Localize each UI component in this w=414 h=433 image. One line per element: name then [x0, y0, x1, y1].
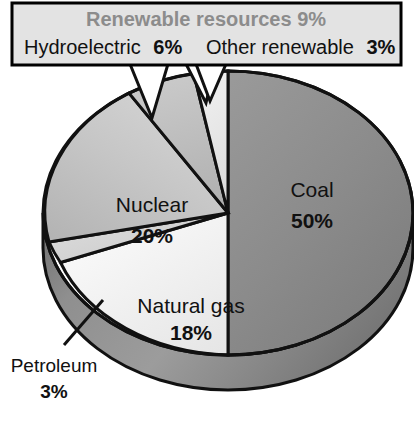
label-natural-gas-value: 18%	[170, 321, 212, 344]
pie-chart-figure: Renewable resources 9% Hydroelectric 6% …	[0, 0, 414, 433]
label-nuclear-name: Nuclear	[116, 193, 188, 216]
label-petroleum-name: Petroleum	[11, 355, 98, 376]
label-coal-name: Coal	[290, 178, 333, 201]
label-coal-value: 50%	[291, 209, 333, 232]
callout-hydro-value: 6%	[153, 36, 182, 58]
svg-text:Other renewable 3%: Other renewable 3%	[206, 36, 396, 58]
label-natural-gas-name: Natural gas	[137, 294, 244, 317]
renewables-callout-box: Renewable resources 9% Hydroelectric 6% …	[12, 3, 401, 65]
svg-text:Hydroelectric 6%: Hydroelectric 6%	[24, 36, 182, 58]
callout-hydro-name: Hydroelectric	[24, 36, 141, 58]
callout-other-value: 3%	[366, 36, 395, 58]
label-petroleum-value: 3%	[40, 381, 68, 402]
callout-other-name: Other renewable	[206, 36, 354, 58]
callout-group-label: Renewable resources 9%	[86, 8, 326, 30]
chart-canvas: Renewable resources 9% Hydroelectric 6% …	[0, 0, 414, 433]
label-nuclear-value: 20%	[131, 224, 173, 247]
